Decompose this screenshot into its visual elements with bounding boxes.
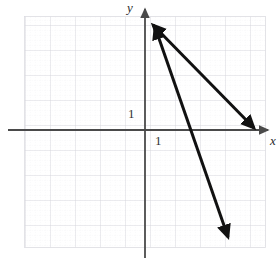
y-axis-label: y <box>127 1 133 14</box>
coordinate-plane-figure: y x 1 1 <box>0 0 279 258</box>
graph-canvas <box>0 0 279 258</box>
x-axis-label: x <box>270 134 276 147</box>
x-axis-tick-label-1: 1 <box>155 134 162 147</box>
y-axis-tick-label-1: 1 <box>128 107 135 120</box>
